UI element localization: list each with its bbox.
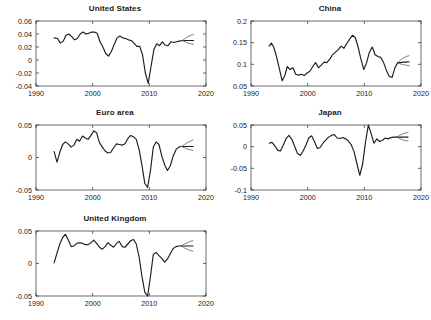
y-tick-label: 0.05 — [18, 121, 32, 130]
plot-area-japan: 1990200020102020-0.1-0.0500.05 — [215, 106, 431, 210]
x-tick-label: 2010 — [356, 193, 372, 202]
panel-uk: United Kingdom 1990200020102020-0.0500.0… — [0, 212, 216, 318]
y-tick-label: -0.05 — [16, 292, 32, 301]
chart-render-us: 1990200020102020-0.04-0.0200.020.040.06 — [16, 17, 214, 98]
y-tick-label: -0.02 — [16, 69, 32, 78]
series-history — [54, 32, 182, 83]
x-tick-label: 2020 — [198, 299, 214, 308]
panel-euro: Euro area 1990200020102020-0.0500.05 — [0, 106, 216, 210]
chart-svg-uk: 1990200020102020-0.0500.05 — [0, 212, 216, 318]
series-forecast-lower — [182, 41, 193, 45]
y-tick-label: 0 — [28, 259, 32, 268]
y-tick-label: 0.02 — [18, 43, 32, 52]
panel-us: United States 1990200020102020-0.04-0.02… — [0, 2, 216, 106]
series-history — [54, 131, 182, 188]
x-tick-label: 2020 — [198, 193, 214, 202]
x-tick-label: 2000 — [85, 89, 101, 98]
y-tick-label: 0.05 — [233, 121, 247, 130]
y-tick-label: 0.15 — [233, 38, 247, 47]
y-tick-label: 0 — [28, 56, 32, 65]
series-history — [269, 35, 398, 81]
chart-svg-japan: 1990200020102020-0.1-0.0500.05 — [215, 106, 431, 210]
multi-panel-figure: United States 1990200020102020-0.04-0.02… — [0, 0, 431, 320]
series-forecast-lower — [397, 137, 408, 141]
series-forecast-lower — [398, 63, 409, 66]
y-tick-label: 0.05 — [18, 227, 32, 236]
x-tick-label: 2000 — [300, 89, 316, 98]
y-tick-label: 0.1 — [237, 60, 247, 69]
chart-svg-us: 1990200020102020-0.04-0.0200.020.040.06 — [0, 2, 216, 106]
chart-render-japan: 1990200020102020-0.1-0.0500.05 — [231, 121, 429, 202]
chart-svg-china: 19902000201020200.050.10.150.2 — [215, 2, 431, 106]
x-tick-label: 2010 — [356, 89, 372, 98]
chart-svg-euro: 1990200020102020-0.0500.05 — [0, 106, 216, 210]
chart-render-uk: 1990200020102020-0.0500.05 — [16, 227, 214, 308]
y-tick-label: 0.2 — [237, 17, 247, 26]
x-tick-label: 2000 — [85, 193, 101, 202]
y-tick-label: 0.06 — [18, 17, 32, 26]
y-tick-label: -0.05 — [16, 186, 32, 195]
y-tick-label: -0.1 — [235, 186, 247, 195]
panel-china: China 19902000201020200.050.10.150.2 — [215, 2, 431, 106]
x-tick-label: 2020 — [198, 89, 214, 98]
chart-render-china: 19902000201020200.050.10.150.2 — [233, 17, 429, 98]
plot-box — [36, 125, 206, 190]
y-tick-label: -0.04 — [16, 82, 32, 91]
plot-area-uk: 1990200020102020-0.0500.05 — [0, 212, 216, 318]
series-forecast-upper — [182, 140, 193, 147]
x-tick-label: 2010 — [141, 89, 157, 98]
chart-render-euro: 1990200020102020-0.0500.05 — [16, 121, 214, 202]
plot-area-china: 19902000201020200.050.10.150.2 — [215, 2, 431, 106]
series-history — [269, 125, 397, 175]
y-tick-label: 0.05 — [233, 82, 247, 91]
plot-box — [36, 21, 206, 86]
plot-box — [251, 125, 421, 190]
series-forecast-lower — [182, 146, 193, 150]
plot-area-us: 1990200020102020-0.04-0.0200.020.040.06 — [0, 2, 216, 106]
plot-box — [251, 21, 421, 86]
x-tick-label: 2020 — [413, 193, 429, 202]
x-tick-label: 2020 — [413, 89, 429, 98]
series-forecast-upper — [397, 132, 408, 137]
panel-japan: Japan 1990200020102020-0.1-0.0500.05 — [215, 106, 431, 210]
y-tick-label: 0 — [28, 153, 32, 162]
plot-area-euro: 1990200020102020-0.0500.05 — [0, 106, 216, 210]
y-tick-label: 0.04 — [18, 30, 32, 39]
series-forecast-upper — [182, 35, 193, 41]
series-forecast-central — [398, 62, 409, 63]
x-tick-label: 2000 — [85, 299, 101, 308]
x-tick-label: 2000 — [300, 193, 316, 202]
x-tick-label: 2010 — [141, 193, 157, 202]
series-forecast-lower — [182, 246, 193, 251]
y-tick-label: 0 — [243, 142, 247, 151]
series-history — [54, 234, 182, 296]
x-tick-label: 2010 — [141, 299, 157, 308]
y-tick-label: -0.05 — [231, 164, 247, 173]
series-forecast-upper — [182, 241, 193, 246]
